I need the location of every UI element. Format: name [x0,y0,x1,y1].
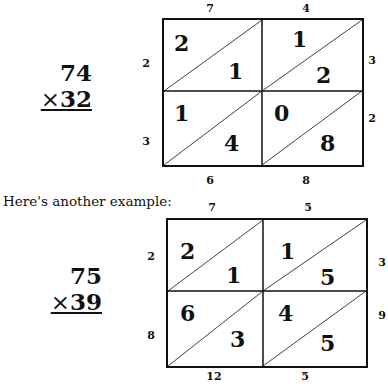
left-label: 3 [136,135,156,148]
left-label: 2 [141,250,161,263]
cell-tens: 6 [180,302,195,324]
cell-ones: 1 [226,264,241,286]
cell-ones: 1 [228,60,243,82]
cell-ones: 5 [320,266,335,288]
right-label: 3 [362,54,382,67]
cell-tens: 2 [180,240,195,262]
multiplicand: 74 [22,60,92,86]
multiplier-line: ×39 [32,289,102,315]
cell-tens: 1 [174,102,189,124]
bottom-label: 12 [204,370,224,383]
lattice-lines [168,220,366,366]
top-label: 7 [202,201,222,214]
multiplier: 39 [70,288,102,315]
right-label: 9 [372,309,388,322]
bottom-label: 8 [296,174,316,187]
cell-tens: 1 [292,28,307,50]
bottom-label: 6 [200,174,220,187]
top-label: 5 [298,201,318,214]
cell-tens: 1 [280,240,295,262]
multiplier: 32 [60,85,92,112]
cell-tens: 2 [174,32,189,54]
cell-ones: 8 [320,132,335,154]
cell-ones: 2 [316,64,331,86]
cell-tens: 0 [274,102,289,124]
problem-1: 74 ×32 [22,60,92,112]
top-label: 4 [296,2,316,15]
bottom-label: 5 [295,370,315,383]
multiplicand: 75 [32,263,102,289]
right-label: 3 [372,256,388,269]
cell-ones: 3 [230,328,245,350]
lattice-grid-1: 2 1 1 2 1 4 0 8 [162,18,364,167]
cell-ones: 4 [224,132,239,154]
left-label: 8 [141,329,161,342]
top-label: 7 [200,2,220,15]
cell-tens: 4 [278,302,293,324]
left-label: 2 [136,57,156,70]
problem-2: 75 ×39 [32,263,102,315]
caption: Here's another example: [3,193,172,209]
cell-ones: 5 [320,332,335,354]
multiplier-line: ×32 [22,86,92,112]
lattice-grid-2: 2 1 1 5 6 3 4 5 [166,218,368,368]
right-label: 2 [362,112,382,125]
